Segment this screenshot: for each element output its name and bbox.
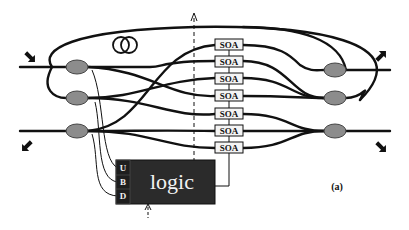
port-u: U bbox=[120, 163, 127, 173]
soa-block: SOA bbox=[215, 90, 243, 101]
coupler-left-2 bbox=[66, 91, 88, 105]
svg-text:SOA: SOA bbox=[220, 91, 239, 101]
svg-text:SOA: SOA bbox=[220, 57, 239, 67]
port-b: B bbox=[120, 177, 126, 187]
soa-block: SOA bbox=[215, 125, 243, 136]
svg-text:SOA: SOA bbox=[220, 143, 239, 153]
port-d: D bbox=[120, 191, 127, 201]
coupler-right-1 bbox=[324, 63, 346, 77]
fiber-coil-icon bbox=[113, 37, 137, 53]
soa-block: SOA bbox=[215, 108, 243, 119]
coupler-left-1 bbox=[66, 60, 88, 74]
switch-diagram: SOA SOA SOA SOA SOA SOA SOA U B D logic bbox=[0, 0, 409, 230]
soa-block: SOA bbox=[215, 142, 243, 153]
input-arrow-icon bbox=[19, 138, 35, 154]
logic-label: logic bbox=[150, 169, 194, 194]
soa-block: SOA bbox=[215, 73, 243, 84]
svg-text:SOA: SOA bbox=[220, 74, 239, 84]
svg-text:SOA: SOA bbox=[220, 40, 239, 50]
output-arrow-icon bbox=[373, 139, 389, 155]
figure-label: (a) bbox=[331, 181, 343, 193]
soa-block: SOA bbox=[215, 39, 243, 50]
dashed-control-line bbox=[191, 13, 197, 160]
soa-block: SOA bbox=[215, 56, 243, 67]
logic-input-arrow bbox=[145, 204, 151, 218]
coupler-right-2 bbox=[324, 91, 346, 105]
coupler-right-3 bbox=[324, 124, 346, 138]
soa-stack: SOA SOA SOA SOA SOA SOA SOA bbox=[215, 39, 243, 153]
coupler-left-3 bbox=[66, 124, 88, 138]
input-arrow-icon bbox=[22, 49, 38, 65]
logic-block: U B D logic bbox=[116, 160, 215, 204]
svg-text:SOA: SOA bbox=[220, 126, 239, 136]
svg-text:SOA: SOA bbox=[220, 109, 239, 119]
